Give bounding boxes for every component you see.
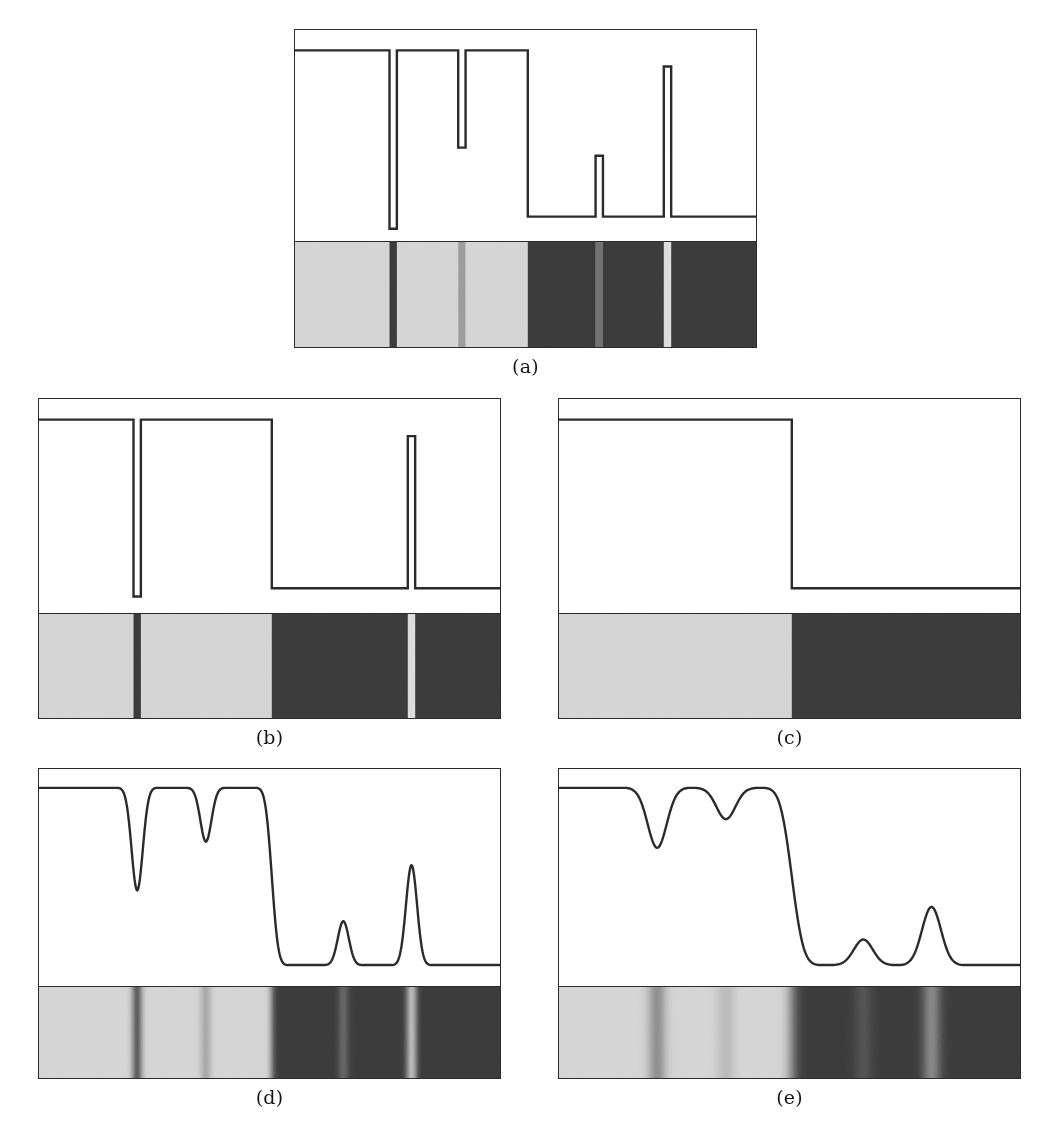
profile-plot-c — [558, 398, 1021, 614]
panel-caption-b: (b) — [38, 726, 501, 748]
panel-caption-c: (c) — [558, 726, 1021, 748]
profile-curve-b — [39, 399, 500, 613]
band-strip-d — [39, 987, 500, 1078]
figure-panel-a: (a) — [294, 29, 757, 377]
grayscale-band-a — [294, 242, 757, 348]
band-strip-b — [39, 614, 500, 718]
figure-panel-c: (c) — [558, 398, 1021, 748]
figure-panel-d: (d) — [38, 768, 501, 1108]
grayscale-band-d — [38, 987, 501, 1079]
profile-curve-a — [295, 30, 756, 241]
grayscale-band-b — [38, 614, 501, 719]
profile-plot-b — [38, 398, 501, 614]
panel-caption-e: (e) — [558, 1086, 1021, 1108]
figure-panel-e: (e) — [558, 768, 1021, 1108]
band-strip-e — [559, 987, 1020, 1078]
band-strip-c — [559, 614, 1020, 718]
profile-curve-c — [559, 399, 1020, 613]
panel-caption-a: (a) — [294, 355, 757, 377]
grayscale-band-c — [558, 614, 1021, 719]
profile-plot-a — [294, 29, 757, 242]
panel-caption-d: (d) — [38, 1086, 501, 1108]
figure-panel-b: (b) — [38, 398, 501, 748]
profile-curve-d — [39, 769, 500, 986]
profile-curve-e — [559, 769, 1020, 986]
profile-plot-e — [558, 768, 1021, 987]
grayscale-band-e — [558, 987, 1021, 1079]
profile-plot-d — [38, 768, 501, 987]
band-strip-a — [295, 242, 756, 347]
